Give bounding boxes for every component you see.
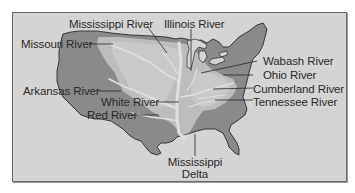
label-arkansas-river: Arkansas River [23, 85, 100, 97]
label-mississippi-delta-line1: Mississippi [163, 156, 227, 168]
label-missouri-river: Missouri River [21, 38, 92, 50]
label-illinois-river: Illinois River [164, 18, 225, 30]
label-cumberland-river: Cumberland River [253, 83, 344, 95]
label-mississippi-delta-line2: Delta [163, 168, 227, 180]
label-mississippi-river: Mississippi River [69, 18, 153, 30]
label-wabash-river: Wabash River [263, 55, 334, 67]
label-white-river: White River [101, 96, 159, 108]
label-mississippi-delta: Mississippi Delta [163, 156, 227, 180]
label-tennessee-river: Tennessee River [253, 96, 337, 108]
map-frame: Mississippi River Illinois River Missour… [12, 12, 347, 182]
label-red-river: Red River [87, 109, 137, 121]
label-ohio-river: Ohio River [263, 69, 316, 81]
